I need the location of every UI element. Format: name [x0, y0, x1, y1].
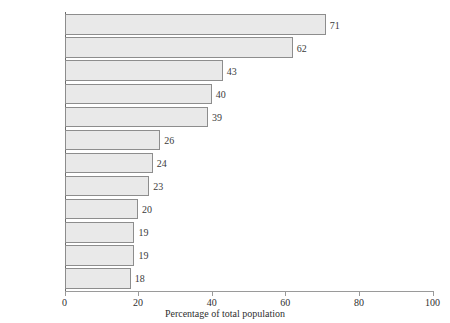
bar-value-label: 18: [135, 273, 145, 284]
bar-row[interactable]: 20: [65, 199, 433, 219]
bar-row[interactable]: 26: [65, 130, 433, 150]
bar-row[interactable]: 24: [65, 153, 433, 173]
bar[interactable]: [65, 268, 131, 288]
bar-value-label: 20: [142, 204, 152, 215]
bar-value-label: 40: [216, 88, 226, 99]
bar-value-label: 24: [157, 158, 167, 169]
x-axis-tick-label: 80: [354, 297, 364, 308]
bar[interactable]: [65, 222, 135, 242]
bar[interactable]: [65, 153, 153, 173]
bar[interactable]: [65, 199, 139, 219]
x-axis-tick: [212, 291, 213, 296]
x-axis-tick: [138, 291, 139, 296]
bar-row[interactable]: 62: [65, 37, 433, 57]
x-axis-tick-label: 0: [62, 297, 67, 308]
bar-row[interactable]: 43: [65, 60, 433, 80]
bar-row[interactable]: 71: [65, 14, 433, 34]
bar-value-label: 19: [138, 227, 148, 238]
bar[interactable]: [65, 130, 161, 150]
bar[interactable]: [65, 107, 209, 127]
x-axis-tick-label: 20: [133, 297, 143, 308]
bar-row[interactable]: 19: [65, 245, 433, 265]
bar-value-label: 39: [212, 111, 222, 122]
bar[interactable]: [65, 245, 135, 265]
bar-value-label: 62: [297, 42, 307, 53]
bar-value-label: 23: [153, 181, 163, 192]
x-axis-line: [65, 291, 433, 292]
bar[interactable]: [65, 84, 212, 104]
x-axis-tick: [65, 291, 66, 296]
bar-value-label: 43: [227, 65, 237, 76]
bar-chart: 71United Arab Emirates62Kuwait43Singapor…: [0, 0, 450, 323]
bar-row[interactable]: 19: [65, 222, 433, 242]
bar-value-label: 19: [138, 250, 148, 261]
x-axis-tick: [359, 291, 360, 296]
bar-row[interactable]: 23: [65, 176, 433, 196]
bar-row[interactable]: 40: [65, 84, 433, 104]
x-axis-tick-label: 60: [280, 297, 290, 308]
bar[interactable]: [65, 37, 293, 57]
bar-row[interactable]: 39: [65, 107, 433, 127]
bar-value-label: 26: [164, 134, 174, 145]
bar[interactable]: [65, 176, 150, 196]
bar[interactable]: [65, 14, 326, 34]
x-axis-tick: [285, 291, 286, 296]
x-axis-tick: [433, 291, 434, 296]
x-axis-title: Percentage of total population: [0, 308, 450, 319]
bar-row[interactable]: 18: [65, 268, 433, 288]
plot-area: 71United Arab Emirates62Kuwait43Singapor…: [65, 13, 433, 290]
x-axis-tick-label: 100: [425, 297, 440, 308]
bar[interactable]: [65, 60, 223, 80]
chart-title-clipped: [0, 0, 450, 6]
x-axis-tick-label: 40: [207, 297, 217, 308]
bar-value-label: 71: [330, 19, 340, 30]
